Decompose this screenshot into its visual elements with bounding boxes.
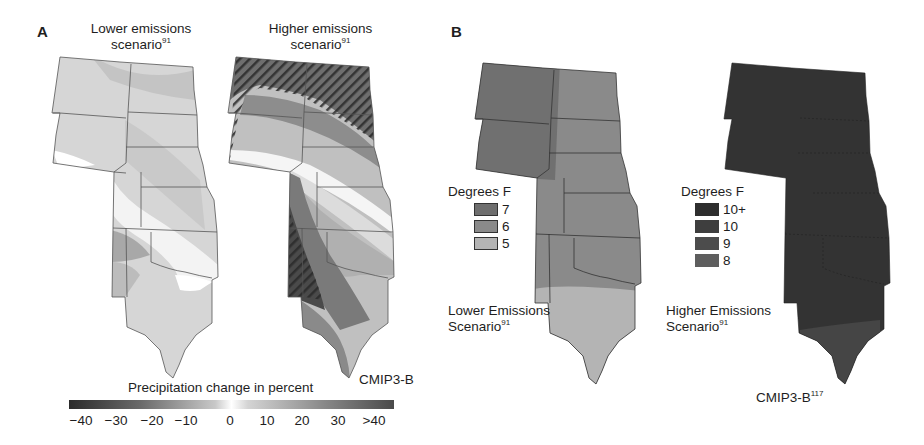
legend-item: 8 bbox=[695, 252, 746, 269]
legend-item: 9 bbox=[695, 235, 746, 252]
legend-item: 6 bbox=[474, 218, 511, 235]
legend-lower-emissions: Degrees F 7 6 5 bbox=[448, 184, 511, 252]
source-label-b: CMIP3-B117 bbox=[756, 390, 824, 405]
legend-swatch bbox=[474, 237, 498, 250]
map-precip-lower bbox=[40, 50, 230, 390]
legend-higher-emissions: Degrees F 10+ 10 9 8 bbox=[681, 184, 746, 269]
legend-swatch bbox=[474, 220, 498, 233]
legend-swatch bbox=[695, 203, 719, 216]
colorbar-title: Precipitation change in percent bbox=[128, 380, 313, 395]
legend-item: 10 bbox=[695, 218, 746, 235]
legend-item: 7 bbox=[474, 201, 511, 218]
legend-swatch bbox=[695, 237, 719, 250]
legend-item: 10+ bbox=[695, 201, 746, 218]
scenario-label-higher: Higher Emissions Scenario91 bbox=[666, 303, 771, 335]
colorbar-ticks: −40 −30 −20 −10 0 10 20 30 >40 bbox=[69, 413, 394, 429]
map-temp-higher bbox=[720, 55, 900, 400]
precip-colorbar bbox=[69, 400, 394, 409]
legend-swatch bbox=[695, 220, 719, 233]
legend-swatch bbox=[695, 254, 719, 267]
legend-swatch bbox=[474, 203, 498, 216]
source-label-a: CMIP3-B bbox=[359, 372, 414, 387]
legend-item: 5 bbox=[474, 235, 511, 252]
scenario-label-lower: Lower Emissions Scenario91 bbox=[448, 303, 550, 335]
